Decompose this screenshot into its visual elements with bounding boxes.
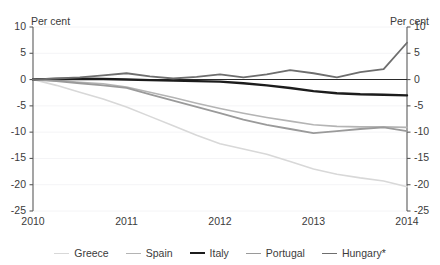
right-tick-label: 0 [414,73,436,85]
left-tick-label: 5 [4,46,26,58]
legend-item-spain[interactable]: Spain [126,247,173,259]
legend-item-greece[interactable]: Greece [54,247,108,259]
legend-label: Spain [146,247,173,259]
axis-ticks [30,27,411,211]
left-tick-label: 10 [4,20,26,32]
legend-line-swatch [322,253,337,254]
x-tick-label: 2014 [387,215,427,227]
series-line-hungary [33,43,407,80]
legend-line-swatch [190,252,205,254]
legend-label: Hungary* [342,247,386,259]
legend-item-hungary[interactable]: Hungary* [322,247,386,259]
left-tick-label: -20 [4,178,26,190]
legend-label: Greece [74,247,108,259]
left-tick-label: 0 [4,73,26,85]
legend-label: Portugal [266,247,305,259]
right-tick-label: -20 [414,178,436,190]
legend-line-swatch [126,253,141,254]
series-line-greece [33,80,407,187]
legend-line-swatch [54,253,69,254]
x-tick-label: 2010 [13,215,53,227]
right-tick-label: -15 [414,151,436,163]
gridlines [33,27,407,211]
right-tick-label: -5 [414,99,436,111]
right-tick-label: 5 [414,46,436,58]
legend-item-portugal[interactable]: Portugal [246,247,305,259]
right-tick-label: -10 [414,125,436,137]
right-tick-label: 10 [414,20,436,32]
left-tick-label: -10 [4,125,26,137]
chart-legend: GreeceSpainItalyPortugalHungary* [0,247,440,259]
x-tick-label: 2013 [294,215,334,227]
left-tick-label: -15 [4,151,26,163]
series-line-spain [33,80,407,128]
axis-lines [33,27,407,211]
series-line-italy [33,79,407,96]
chart-container: Per cent Per cent 1050-5-10-15-20-25 105… [0,0,440,265]
x-tick-label: 2012 [200,215,240,227]
legend-line-swatch [246,253,261,254]
data-series-group [33,43,407,187]
x-tick-label: 2011 [107,215,147,227]
series-line-portugal [33,80,407,134]
legend-label: Italy [210,247,229,259]
left-tick-label: -5 [4,99,26,111]
legend-item-italy[interactable]: Italy [190,247,229,259]
